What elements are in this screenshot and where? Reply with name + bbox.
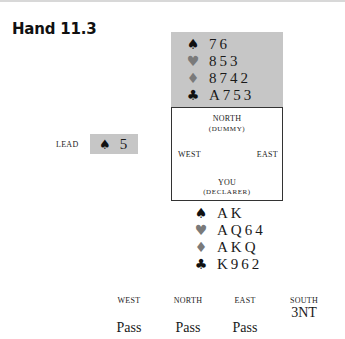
spade-icon: ♠ — [185, 36, 201, 53]
compass-south: YOU — [172, 178, 282, 187]
diamond-icon: ♦ — [185, 70, 201, 87]
heart-icon: ♥ — [193, 222, 209, 239]
dummy-spades-row: ♠ 76 — [185, 36, 230, 53]
declarer-spades-row: ♠ AK — [193, 205, 245, 222]
lead-card-rank: 5 — [120, 136, 131, 153]
declarer-diamonds-cards: AKQ — [217, 239, 259, 256]
declarer-clubs-cards: K962 — [217, 256, 262, 273]
auction-header-west: WEST — [104, 296, 154, 305]
declarer-diamonds-row: ♦ AKQ — [193, 239, 259, 256]
declarer-hearts-cards: AQ64 — [217, 222, 266, 239]
dummy-diamonds-row: ♦ 8742 — [185, 70, 251, 87]
declarer-clubs-row: ♣ K962 — [193, 256, 262, 273]
declarer-hand: ♠ AK ♥ AQ64 ♦ AKQ ♣ K962 — [193, 205, 293, 275]
compass-south-sub: (DECLARER) — [172, 188, 282, 196]
compass-east: EAST — [257, 150, 278, 159]
lead-label: LEAD — [56, 140, 79, 149]
dummy-hearts-row: ♥ 853 — [185, 53, 241, 70]
spade-icon: ♠ — [193, 205, 209, 222]
spade-icon: ♠ — [98, 136, 112, 153]
bid-west-1: Pass — [104, 320, 154, 336]
bid-south-1: 3NT — [279, 305, 329, 321]
dummy-clubs-row: ♣ A753 — [185, 87, 254, 104]
auction-header-north: NORTH — [163, 296, 213, 305]
bid-east-1: Pass — [220, 320, 270, 336]
lead-card: ♠ 5 — [90, 134, 138, 154]
top-rule — [0, 0, 345, 2]
auction-header-south: SOUTH — [279, 296, 329, 305]
compass-north-sub: (DUMMY) — [172, 125, 282, 133]
diamond-icon: ♦ — [193, 239, 209, 256]
declarer-spades-cards: AK — [217, 205, 245, 222]
hand-heading: Hand 11.3 — [12, 20, 97, 38]
bid-north-1: Pass — [163, 320, 213, 336]
dummy-diamonds-cards: 8742 — [209, 70, 251, 87]
dummy-spades-cards: 76 — [209, 36, 230, 53]
compass-north: NORTH — [172, 114, 282, 123]
auction-header-east: EAST — [220, 296, 270, 305]
dummy-hand: ♠ 76 ♥ 853 ♦ 8742 ♣ A753 — [171, 32, 283, 107]
compass-west: WEST — [178, 150, 201, 159]
club-icon: ♣ — [193, 256, 209, 273]
dummy-hearts-cards: 853 — [209, 53, 241, 70]
table-compass: NORTH (DUMMY) WEST EAST YOU (DECLARER) — [171, 107, 283, 201]
heart-icon: ♥ — [185, 53, 201, 70]
club-icon: ♣ — [185, 87, 201, 104]
dummy-clubs-cards: A753 — [209, 87, 254, 104]
declarer-hearts-row: ♥ AQ64 — [193, 222, 266, 239]
